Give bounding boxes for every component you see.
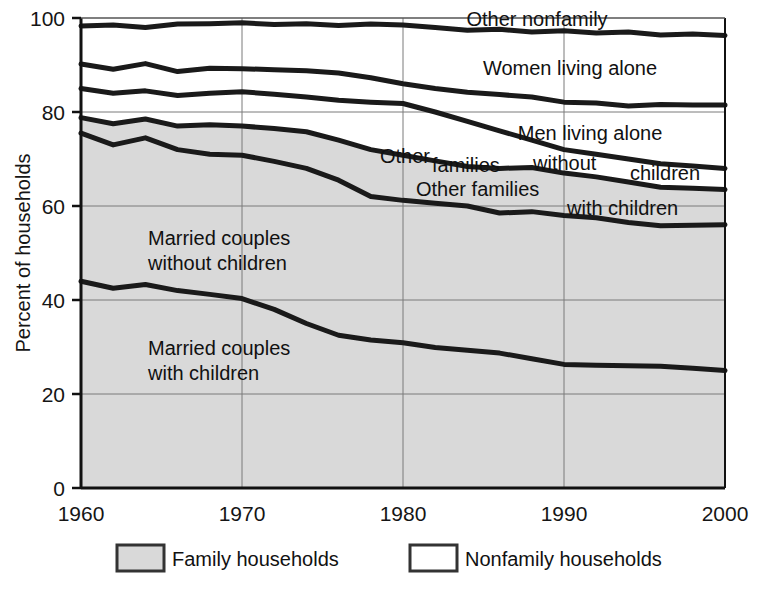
chart-canvas: 020406080100 19601970198019902000 Percen… bbox=[0, 0, 759, 599]
y-axis-title: Percent of households bbox=[12, 153, 34, 352]
legend-swatch-nonfamily-households bbox=[410, 545, 457, 571]
series-label-married-couples-with-children-line1: Married couples bbox=[148, 337, 290, 359]
series-label-other-families-without-children-word1: Other bbox=[380, 145, 430, 167]
y-tick-label-20: 20 bbox=[42, 383, 65, 406]
legend-label-nonfamily-households: Nonfamily households bbox=[465, 548, 662, 570]
series-label-married-couples-without-children-line1: Married couples bbox=[148, 227, 290, 249]
x-tick-label-1980: 1980 bbox=[380, 502, 427, 525]
legend-swatch-family-households bbox=[117, 545, 164, 571]
x-tick-label-2000: 2000 bbox=[702, 502, 749, 525]
x-axis-tick-labels: 19601970198019902000 bbox=[58, 502, 749, 525]
x-tick-label-1970: 1970 bbox=[219, 502, 266, 525]
x-tick-label-1990: 1990 bbox=[541, 502, 588, 525]
household-composition-chart: 020406080100 19601970198019902000 Percen… bbox=[0, 0, 759, 599]
y-axis-tick-labels: 020406080100 bbox=[30, 7, 65, 500]
y-tick-label-40: 40 bbox=[42, 289, 65, 312]
series-label-other-families-with-children-line1: Other families bbox=[416, 178, 539, 200]
series-label-other-families-with-children-line2: with children bbox=[566, 197, 678, 219]
legend-label-family-households: Family households bbox=[172, 548, 339, 570]
y-tick-label-60: 60 bbox=[42, 195, 65, 218]
y-tick-label-80: 80 bbox=[42, 101, 65, 124]
x-tick-label-1960: 1960 bbox=[58, 502, 105, 525]
y-tick-label-100: 100 bbox=[30, 7, 65, 30]
series-label-other-families-without-children-word3: without bbox=[532, 152, 597, 174]
series-label-other-nonfamily: Other nonfamily bbox=[466, 8, 607, 30]
series-label-women-living-alone: Women living alone bbox=[483, 57, 657, 79]
y-tick-label-0: 0 bbox=[53, 477, 65, 500]
series-label-other-families-without-children-word2: families bbox=[432, 154, 500, 176]
legend: Family households Nonfamily households bbox=[117, 545, 662, 571]
series-label-married-couples-with-children-line2: with children bbox=[147, 362, 259, 384]
series-label-married-couples-without-children-line2: without children bbox=[147, 252, 287, 274]
series-label-men-living-alone: Men living alone bbox=[518, 122, 663, 144]
series-label-other-families-without-children-word4: children bbox=[630, 162, 700, 184]
